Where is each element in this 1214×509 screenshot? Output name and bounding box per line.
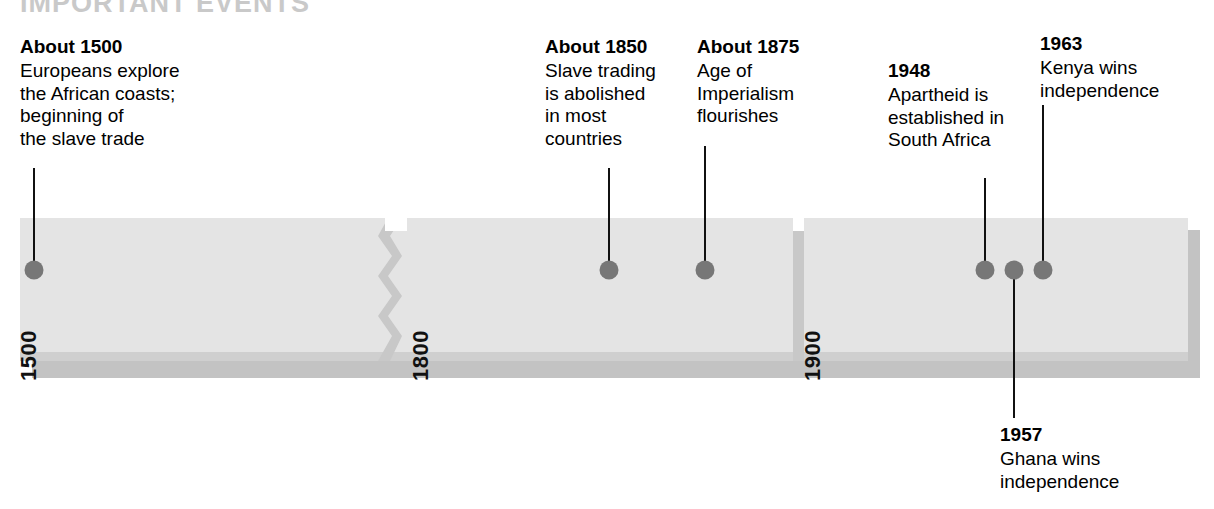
callout-description: Apartheid is established in South Africa [888, 84, 1004, 152]
callout-year: 1948 [888, 60, 1004, 83]
callout-description: Age of Imperialism flourishes [697, 60, 799, 128]
callout-about-1500: About 1500 Europeans explore the African… [20, 36, 180, 151]
callout-year: About 1500 [20, 36, 180, 59]
leader-line-1948 [984, 178, 986, 264]
leader-line-about-1850 [608, 168, 610, 264]
page-title: IMPORTANT EVENTS [20, 0, 310, 19]
callout-year: 1957 [1000, 424, 1119, 447]
event-dot-1957 [1005, 261, 1024, 280]
timeline-break-notch-a [385, 218, 407, 231]
callout-about-1850: About 1850 Slave trading is abolished in… [545, 36, 656, 151]
event-dot-about-1850 [600, 261, 619, 280]
timeline-infographic: IMPORTANT EVENTS 1500 1800 1900 About 15… [0, 0, 1214, 509]
event-dot-1963 [1034, 261, 1053, 280]
event-dot-about-1875 [696, 261, 715, 280]
event-dot-1948 [976, 261, 995, 280]
callout-year: About 1875 [697, 36, 799, 59]
callout-description: Slave trading is abolished in most count… [545, 60, 656, 151]
callout-description: Europeans explore the African coasts; be… [20, 60, 180, 151]
axis-tick-1500: 1500 [16, 330, 42, 381]
callout-year: About 1850 [545, 36, 656, 59]
callout-1957: 1957 Ghana wins independence [1000, 424, 1119, 493]
callout-description: Kenya wins independence [1040, 57, 1159, 103]
timeline-break-notch-b [793, 218, 804, 231]
axis-tick-1900: 1900 [800, 330, 826, 381]
leader-line-about-1875 [704, 146, 706, 264]
leader-line-about-1500 [33, 168, 35, 264]
leader-line-1957 [1013, 276, 1015, 418]
callout-year: 1963 [1040, 33, 1159, 56]
callout-description: Ghana wins independence [1000, 448, 1119, 494]
leader-line-1963 [1042, 105, 1044, 264]
callout-1948: 1948 Apartheid is established in South A… [888, 60, 1004, 152]
callout-1963: 1963 Kenya wins independence [1040, 33, 1159, 102]
event-dot-about-1500 [25, 261, 44, 280]
axis-tick-1800: 1800 [408, 330, 434, 381]
callout-about-1875: About 1875 Age of Imperialism flourishes [697, 36, 799, 128]
